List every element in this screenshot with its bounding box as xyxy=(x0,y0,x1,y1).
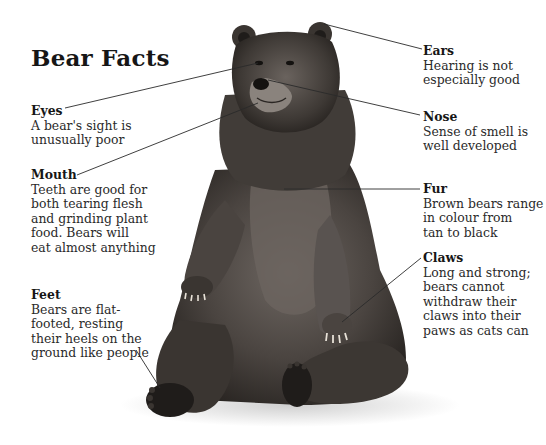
label-feet: Feet Bears are flat- footed, resting the… xyxy=(31,288,149,361)
bear-nose xyxy=(253,78,269,90)
label-ears-text: Hearing is not especially good xyxy=(423,59,520,88)
bear-eye-right xyxy=(286,61,294,65)
label-eyes: Eyes A bear's sight is unusually poor xyxy=(31,104,132,148)
label-ears-heading: Ears xyxy=(423,44,520,59)
label-feet-heading: Feet xyxy=(31,288,149,303)
leader-ears xyxy=(324,24,422,49)
label-ears: Ears Hearing is not especially good xyxy=(423,44,520,88)
label-nose-heading: Nose xyxy=(423,110,528,125)
bear-right-foot xyxy=(282,363,312,407)
label-eyes-text: A bear's sight is unusually poor xyxy=(31,119,132,148)
label-mouth-heading: Mouth xyxy=(31,168,156,183)
label-fur-heading: Fur xyxy=(423,182,543,197)
label-claws-text: Long and strong; bears cannot withdraw t… xyxy=(423,266,531,339)
label-eyes-heading: Eyes xyxy=(31,104,132,119)
label-nose-text: Sense of smell is well developed xyxy=(423,125,528,154)
label-fur-text: Brown bears range in colour from tan to … xyxy=(423,197,543,241)
label-mouth: Mouth Teeth are good for both tearing fl… xyxy=(31,168,156,256)
label-feet-text: Bears are flat- footed, resting their he… xyxy=(31,303,149,361)
label-nose: Nose Sense of smell is well developed xyxy=(423,110,528,154)
label-claws: Claws Long and strong; bears cannot with… xyxy=(423,251,531,339)
label-claws-heading: Claws xyxy=(423,251,531,266)
page-title: Bear Facts xyxy=(31,44,170,71)
label-fur: Fur Brown bears range in colour from tan… xyxy=(423,182,543,240)
label-mouth-text: Teeth are good for both tearing flesh an… xyxy=(31,183,156,256)
bear-head xyxy=(232,32,340,133)
